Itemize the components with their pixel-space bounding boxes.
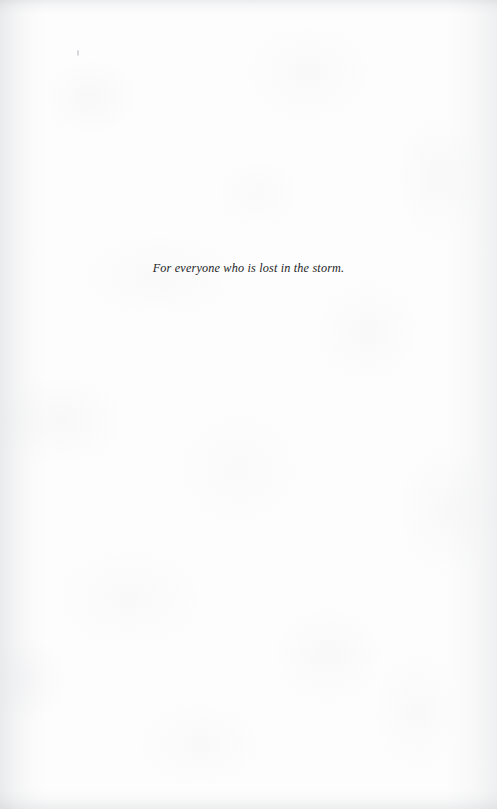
page-edge-shadow-top — [0, 0, 497, 14]
paper-speck — [77, 50, 79, 56]
page-edge-shadow-left — [0, 0, 46, 809]
dedication-text: For everyone who is lost in the storm. — [0, 260, 497, 276]
page-edge-shadow-right — [445, 0, 497, 809]
book-page: For everyone who is lost in the storm. — [0, 0, 497, 809]
page-edge-shadow-bottom — [0, 789, 497, 809]
